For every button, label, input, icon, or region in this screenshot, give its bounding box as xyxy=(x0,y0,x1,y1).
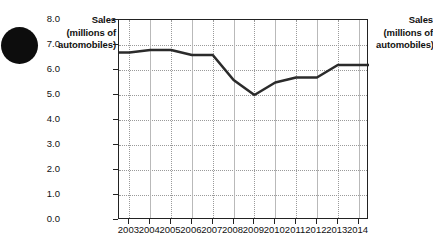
plot-area xyxy=(118,19,368,219)
filled-circle-bullet-icon xyxy=(1,27,38,64)
y-axis-tick-label: 3.0 xyxy=(34,139,60,149)
y-axis-tick-label: 1.0 xyxy=(34,189,60,199)
chart-screenshot: Sales (millions of automobiles) Sales (m… xyxy=(0,0,433,240)
sales-line-path xyxy=(119,50,369,95)
y-axis-tick-label: 2.0 xyxy=(34,164,60,174)
y-axis-tick-label: 8.0 xyxy=(34,14,60,24)
right-axis-title-line-3: automobiles) xyxy=(376,39,433,52)
y-axis-tick-label: 0.0 xyxy=(34,214,60,224)
y-axis-tick-mark xyxy=(113,219,118,220)
x-axis-tick-label: 2014 xyxy=(341,224,375,235)
right-axis-title: Sales (millions of automobiles) xyxy=(376,14,433,52)
y-axis-tick-label: 5.0 xyxy=(34,89,60,99)
sales-line-series xyxy=(119,20,369,220)
y-axis-tick-label: 6.0 xyxy=(34,64,60,74)
y-axis-tick-label: 7.0 xyxy=(34,39,60,49)
right-axis-title-line-1: Sales xyxy=(376,14,433,27)
y-axis-tick-label: 4.0 xyxy=(34,114,60,124)
right-axis-title-line-2: (millions of xyxy=(376,27,433,40)
